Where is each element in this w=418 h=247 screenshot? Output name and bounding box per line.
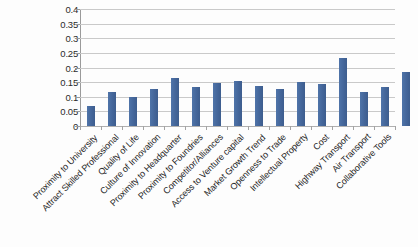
y-axis-tick-mark xyxy=(75,38,80,39)
y-axis-tick-labels: 00.050.10.150.20.250.30.350.4 xyxy=(40,9,78,126)
x-axis-tick-mark xyxy=(269,126,270,130)
figure-caption xyxy=(4,238,304,247)
bar xyxy=(129,97,137,126)
bar xyxy=(234,81,242,126)
bar xyxy=(171,78,179,126)
x-axis-tick-mark xyxy=(80,126,81,130)
bar xyxy=(318,84,326,126)
bar xyxy=(108,92,116,127)
y-axis-tick-mark xyxy=(75,126,80,127)
x-axis-tick-mark xyxy=(122,126,123,130)
bar xyxy=(213,83,221,126)
y-axis-tick-mark xyxy=(75,68,80,69)
x-axis-category-labels: Proximity to UniversityAttract Skilled P… xyxy=(80,131,418,237)
y-axis-tick-mark xyxy=(75,53,80,54)
x-axis-tick-mark xyxy=(290,126,291,130)
y-axis-tick-mark xyxy=(75,82,80,83)
bar xyxy=(255,86,263,126)
x-axis-tick-mark xyxy=(164,126,165,130)
x-axis-tick-mark xyxy=(353,126,354,130)
x-axis-tick-mark xyxy=(248,126,249,130)
bar xyxy=(276,89,284,126)
x-axis-tick-mark xyxy=(227,126,228,130)
bar-chart: 00.050.10.150.20.250.30.350.4 xyxy=(0,0,418,135)
bar xyxy=(339,58,347,126)
y-axis-tick-mark xyxy=(75,9,80,10)
y-axis-tick-mark xyxy=(75,111,80,112)
y-axis-tick-mark xyxy=(75,24,80,25)
bar xyxy=(297,82,305,126)
bar xyxy=(402,72,410,126)
plot-area xyxy=(80,9,395,126)
bar xyxy=(360,92,368,126)
bar xyxy=(192,87,200,126)
x-axis-tick-mark xyxy=(374,126,375,130)
x-axis-tick-mark xyxy=(185,126,186,130)
y-axis-tick-mark xyxy=(75,97,80,98)
x-axis-tick-mark xyxy=(311,126,312,130)
chart-figure: 00.050.10.150.20.250.30.350.4 Proximity … xyxy=(0,0,418,247)
x-axis-tick-mark xyxy=(395,126,396,130)
x-axis-tick-mark xyxy=(332,126,333,130)
bar xyxy=(150,89,158,126)
bar-series xyxy=(80,9,395,126)
x-axis-tick-mark xyxy=(143,126,144,130)
bar xyxy=(381,87,389,126)
x-axis-tick-mark xyxy=(206,126,207,130)
x-axis-tick-mark xyxy=(101,126,102,130)
bar xyxy=(87,106,95,126)
